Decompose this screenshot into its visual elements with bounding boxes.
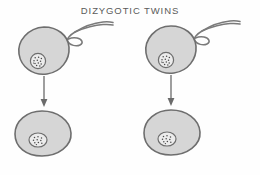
zygote-right-nucleus xyxy=(158,132,176,146)
zygote-left-nucleus-envelope xyxy=(29,133,47,147)
fertilization-unit-left xyxy=(15,22,113,156)
zygote-left-nucleus xyxy=(29,133,47,147)
ovum-right-nucleus-envelope xyxy=(158,52,173,67)
zygote-right xyxy=(144,110,200,155)
ovum-right-nucleus xyxy=(158,52,173,67)
fertilization-arrow-right xyxy=(168,75,175,106)
sperm-left-icon xyxy=(63,22,113,46)
sperm-right-icon xyxy=(190,21,240,45)
ovum-left-nucleus-envelope xyxy=(30,53,45,68)
zygote-right-membrane xyxy=(144,110,200,155)
dizygotic-twins-diagram xyxy=(0,0,260,175)
fertilization-unit-right xyxy=(144,21,240,155)
fertilization-arrow-left xyxy=(41,76,48,107)
sperm-right-tail xyxy=(190,21,240,45)
ovum-left-nucleus xyxy=(30,53,45,68)
ovum-left xyxy=(19,27,69,74)
figure-canvas: DIZYGOTIC TWINS xyxy=(0,0,260,175)
zygote-right-nucleus-envelope xyxy=(158,132,176,146)
sperm-left-tail xyxy=(63,22,113,46)
ovum-left-membrane xyxy=(19,27,69,74)
zygote-left xyxy=(15,111,71,156)
zygote-left-membrane xyxy=(15,111,71,156)
fertilization-arrow-left-head xyxy=(41,99,48,107)
ovum-right xyxy=(146,26,196,73)
fertilization-arrow-right-head xyxy=(168,98,175,106)
